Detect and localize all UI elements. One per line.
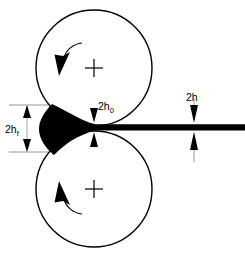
dimension-entry-arrowhead-down	[23, 139, 31, 152]
dimension-entry-thickness: 2hf	[5, 105, 31, 152]
dimension-exit-arrowhead-up	[190, 132, 198, 150]
dimension-exit-label: 2h	[186, 91, 198, 103]
dimension-entry-arrowhead-up	[23, 105, 31, 118]
dimension-exit-arrowhead-down	[190, 105, 198, 123]
figure-root: 2hf 2h0 2h	[0, 0, 245, 256]
dimension-exit-thickness: 2h	[186, 91, 198, 150]
dimension-entry-label: 2hf	[5, 123, 20, 138]
rolling-mill-diagram: 2hf 2h0 2h	[0, 0, 245, 256]
